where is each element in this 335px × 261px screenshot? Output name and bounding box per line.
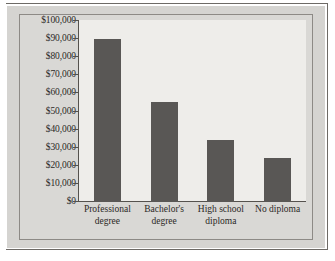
y-axis-tick-label: $20,000 [46, 160, 76, 170]
x-axis-category-labels: ProfessionaldegreeBachelor'sdegreeHigh s… [79, 204, 311, 240]
x-axis-category-label-line: diploma [187, 216, 256, 228]
y-axis-tick-label: $80,000 [46, 51, 76, 61]
chart-figure: $100,000$90,000$80,000$70,000$60,000$50,… [0, 0, 335, 261]
bar [151, 102, 178, 202]
y-axis-tick-label: $90,000 [46, 33, 76, 43]
bar [264, 158, 291, 202]
bar-series [79, 20, 306, 202]
y-axis-tick-label: $10,000 [46, 178, 76, 188]
y-axis-tick-label: $100,000 [41, 15, 76, 25]
y-axis-tick-label: $30,000 [46, 142, 76, 152]
figure-right-rule [327, 3, 328, 250]
figure-top-rule [6, 3, 328, 4]
bar [207, 140, 234, 202]
x-axis-category-label: No diploma [243, 204, 312, 216]
bar [94, 39, 121, 202]
y-axis-tick-label: $70,000 [46, 69, 76, 79]
y-axis-tick-labels: $100,000$90,000$80,000$70,000$60,000$50,… [22, 16, 76, 202]
figure-bottom-rule [6, 249, 328, 250]
y-axis-tick-label: $40,000 [46, 124, 76, 134]
x-axis-category-label-line: No diploma [243, 204, 312, 216]
y-axis-tick-label: $60,000 [46, 87, 76, 97]
y-axis-tick-label: $50,000 [46, 106, 76, 116]
